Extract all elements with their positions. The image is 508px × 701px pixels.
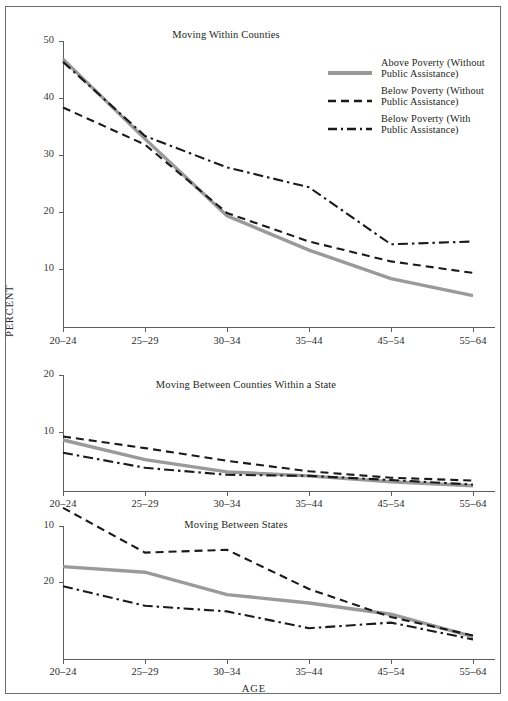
series-line-dashdot [63, 453, 473, 485]
legend-swatch-dashed-icon [328, 90, 372, 94]
legend-item-below-poverty-without-public-assistance: Below Poverty (WithoutPublic Assistance) [328, 85, 503, 108]
chart-panel-moving-between-counties: Moving Between Counties Within a State 2… [6, 359, 502, 511]
chart-panel-moving-between-states: Moving Between States 102020–2425–2930–3… [6, 511, 502, 695]
series-line-dashdot [63, 586, 473, 639]
legend-label-line2: Public Assistance) [381, 68, 503, 79]
legend-label: Above Poverty (WithoutPublic Assistance) [381, 57, 503, 80]
legend-item-below-poverty-with-public-assistance: Below Poverty (WithPublic Assistance) [328, 113, 503, 136]
legend-label: Below Poverty (WithPublic Assistance) [381, 113, 503, 136]
panel2-plot-area: 201020–2425–2930–3435–4445–5455–64 [6, 359, 502, 511]
series-layer [6, 359, 502, 501]
legend-label-line1: Above Poverty (Without [381, 57, 503, 68]
chart-legend: Above Poverty (WithoutPublic Assistance)… [328, 57, 503, 140]
figure-frame: PERCENT AGE Moving Within Counties 50403… [5, 6, 501, 694]
series-layer [6, 511, 502, 669]
legend-label-line1: Below Poverty (With [381, 113, 503, 124]
legend-label-line2: Public Assistance) [381, 96, 503, 107]
legend-label-line1: Below Poverty (Without [381, 85, 503, 96]
panel3-plot-area: 102020–2425–2930–3435–4445–5455–64 [6, 511, 502, 695]
legend-swatch-solid-icon [328, 62, 372, 66]
legend-item-above-poverty-without-public-assistance: Above Poverty (WithoutPublic Assistance) [328, 57, 503, 80]
legend-label-line2: Public Assistance) [381, 124, 503, 135]
legend-label: Below Poverty (WithoutPublic Assistance) [381, 85, 503, 108]
legend-swatch-dashdot-icon [328, 118, 372, 122]
